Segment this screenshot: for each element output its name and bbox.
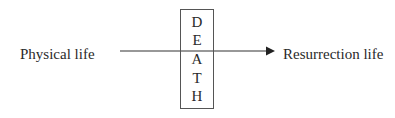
death-letter-e: E [192, 32, 201, 49]
death-letter-a: A [192, 51, 203, 68]
resurrection-life-label: Resurrection life [283, 45, 383, 63]
death-letter-h: H [192, 88, 203, 105]
death-letter-t: T [192, 70, 201, 87]
death-box: D E A T H [180, 9, 214, 109]
death-letter-d: D [192, 14, 203, 31]
